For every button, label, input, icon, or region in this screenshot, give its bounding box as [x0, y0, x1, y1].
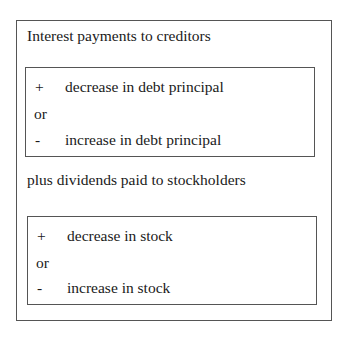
stock-decrease-text: decrease in stock: [67, 227, 173, 245]
or-connector: or: [36, 254, 49, 272]
debt-increase-text: increase in debt principal: [65, 131, 221, 149]
plus-sign: +: [37, 227, 46, 245]
stock-box: + decrease in stock or - increase in sto…: [27, 216, 317, 305]
dividends-heading: plus dividends paid to stockholders: [27, 171, 246, 189]
stock-increase-text: increase in stock: [67, 279, 170, 297]
interest-heading: Interest payments to creditors: [27, 27, 211, 45]
minus-sign: -: [37, 279, 42, 297]
debt-principal-box: + decrease in debt principal or - increa…: [25, 67, 315, 157]
or-connector: or: [34, 105, 47, 123]
debt-decrease-text: decrease in debt principal: [65, 78, 224, 96]
minus-sign: -: [35, 131, 40, 149]
plus-sign: +: [35, 78, 44, 96]
